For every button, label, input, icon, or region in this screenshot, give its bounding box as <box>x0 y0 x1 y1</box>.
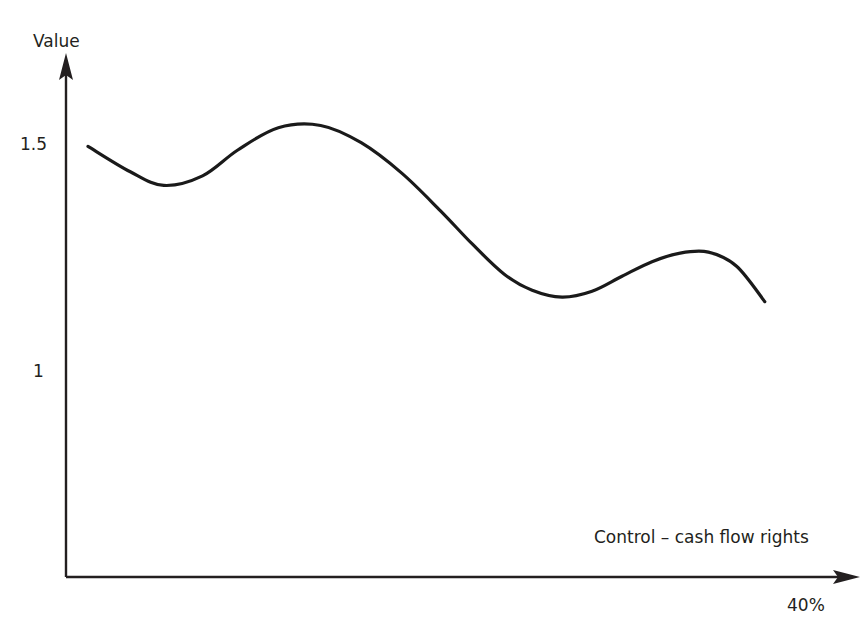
y-tick-label-1-5: 1.5 <box>20 136 47 153</box>
y-axis-label: Value <box>33 33 80 50</box>
y-tick-label-1: 1 <box>33 363 44 380</box>
x-axis <box>66 570 860 584</box>
y-axis <box>59 53 73 577</box>
x-tick-label-40: 40% <box>787 597 825 614</box>
chart-canvas: · · · Value 1.5 1 Control – cash flow ri… <box>0 0 864 639</box>
data-series-line <box>88 124 765 302</box>
x-axis-label: Control – cash flow rights <box>594 529 809 546</box>
